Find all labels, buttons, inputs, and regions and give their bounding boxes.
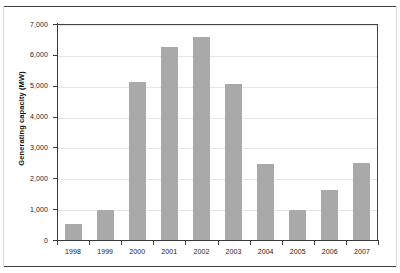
gridline bbox=[57, 56, 377, 57]
x-axis-tick bbox=[282, 241, 283, 245]
bar bbox=[193, 37, 210, 241]
bar bbox=[225, 84, 242, 241]
x-axis-tick bbox=[153, 241, 154, 245]
x-axis-tick-label: 2001 bbox=[152, 248, 186, 256]
bar bbox=[321, 190, 338, 241]
x-axis-tick-label: 2003 bbox=[217, 248, 251, 256]
x-axis-tick-label: 1998 bbox=[56, 248, 90, 256]
y-axis-tick bbox=[53, 209, 58, 210]
page-rule-bottom bbox=[3, 266, 397, 267]
x-axis-tick-label: 1999 bbox=[88, 248, 122, 256]
bar bbox=[353, 163, 370, 241]
gridline bbox=[57, 148, 377, 149]
x-axis-tick bbox=[121, 241, 122, 245]
y-axis-tick-label: 4,000 bbox=[2, 113, 48, 120]
x-axis-tick-label: 2002 bbox=[184, 248, 218, 256]
bar bbox=[289, 210, 306, 241]
y-axis-tick bbox=[53, 24, 58, 25]
gridline bbox=[57, 179, 377, 180]
bar bbox=[129, 82, 146, 241]
y-axis-tick bbox=[53, 55, 58, 56]
page-canvas: Generating capacity (MW) 01,0002,0003,00… bbox=[0, 0, 400, 273]
bar-chart: Generating capacity (MW) 01,0002,0003,00… bbox=[0, 10, 400, 262]
y-axis-tick-label: 0 bbox=[2, 237, 48, 244]
y-axis-tick bbox=[53, 117, 58, 118]
gridline bbox=[57, 118, 377, 119]
y-axis-tick bbox=[53, 86, 58, 87]
x-axis-tick-label: 2005 bbox=[281, 248, 315, 256]
y-axis-tick-label: 2,000 bbox=[2, 175, 48, 182]
gridline bbox=[57, 87, 377, 88]
y-axis-tick-label: 3,000 bbox=[2, 144, 48, 151]
x-axis-tick bbox=[378, 241, 379, 245]
y-axis-tick bbox=[53, 147, 58, 148]
bar bbox=[65, 224, 82, 241]
x-axis-tick-label: 2006 bbox=[313, 248, 347, 256]
y-axis-tick-label: 1,000 bbox=[2, 206, 48, 213]
x-axis-tick-label: 2004 bbox=[249, 248, 283, 256]
bar bbox=[97, 210, 114, 241]
bar bbox=[257, 164, 274, 241]
x-axis-tick bbox=[218, 241, 219, 245]
x-axis-tick bbox=[314, 241, 315, 245]
gridline bbox=[57, 25, 377, 26]
x-axis-tick bbox=[346, 241, 347, 245]
y-axis-tick-label: 7,000 bbox=[2, 21, 48, 28]
plot-area bbox=[57, 24, 378, 240]
x-axis-tick bbox=[89, 241, 90, 245]
x-axis-tick-label: 2000 bbox=[120, 248, 154, 256]
x-axis-tick bbox=[185, 241, 186, 245]
bar bbox=[161, 47, 178, 241]
y-axis-tick-label: 5,000 bbox=[2, 82, 48, 89]
x-axis-tick bbox=[57, 241, 58, 245]
y-axis-tick bbox=[53, 178, 58, 179]
x-axis-tick bbox=[250, 241, 251, 245]
x-axis-tick-label: 2007 bbox=[345, 248, 379, 256]
page-rule-top bbox=[3, 6, 397, 7]
y-axis-tick-label: 6,000 bbox=[2, 51, 48, 58]
